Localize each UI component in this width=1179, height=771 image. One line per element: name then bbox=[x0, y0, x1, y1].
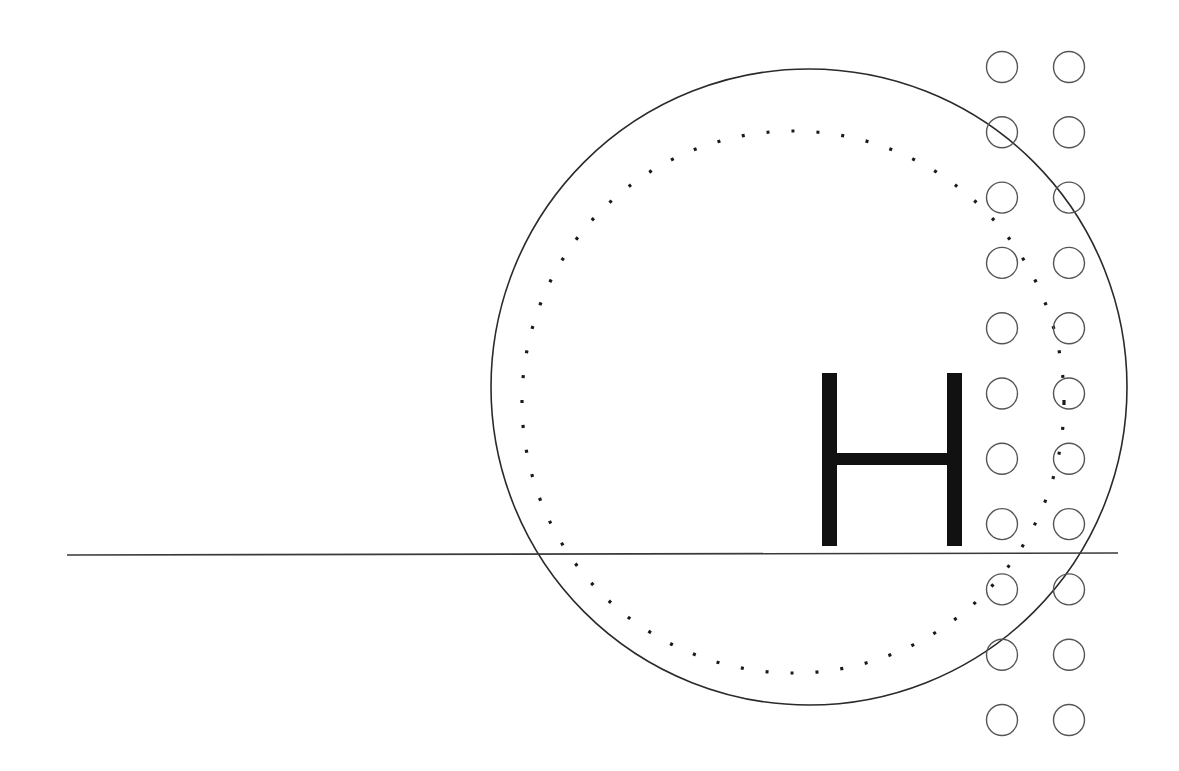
letter-h-crossbar bbox=[822, 453, 962, 465]
diagram-canvas bbox=[0, 0, 1179, 771]
background bbox=[0, 0, 1179, 771]
